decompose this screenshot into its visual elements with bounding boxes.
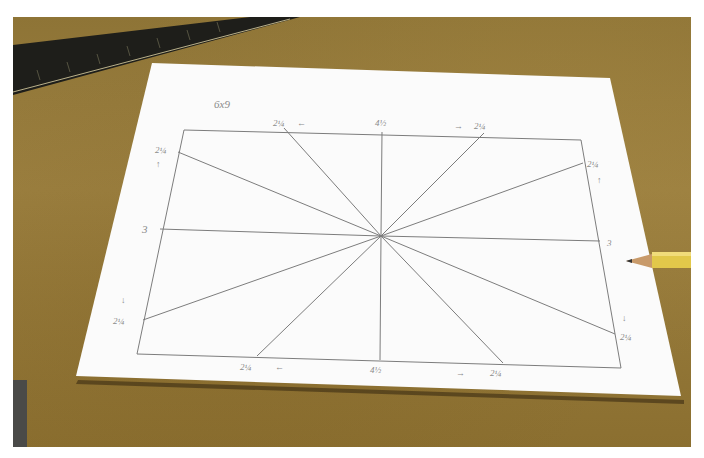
arrow-icon: ← <box>297 118 306 128</box>
arrow-icon: ↓ <box>121 295 126 305</box>
arrow-icon: ← <box>275 362 284 372</box>
clamp <box>13 380 27 447</box>
label-right-bottom: 2¼ <box>620 332 632 342</box>
label-bottom-center: 4½ <box>370 365 382 375</box>
label-right-middle: 3 <box>606 238 612 248</box>
label-top-center: 4½ <box>375 118 387 128</box>
arrow-icon: → <box>456 368 465 378</box>
label-left-middle: 3 <box>141 223 148 235</box>
arrow-icon: ↑ <box>597 175 602 185</box>
label-bottom-left: 2¼ <box>240 362 252 372</box>
arrow-icon: ↓ <box>622 313 627 323</box>
label-left-bottom: 2¼ <box>113 316 125 326</box>
label-top-left: 2¼ <box>273 118 285 128</box>
arrow-icon: ↑ <box>156 159 161 169</box>
label-top-right: 2¼ <box>474 121 486 131</box>
size-note: 6x9 <box>214 98 230 110</box>
label-right-top: 2¼ <box>587 159 599 169</box>
label-left-top: 2¼ <box>155 145 167 155</box>
scene-drawing: 6x9 2¼ ← 4½ → 2¼ 2¼ ↑ 3 ↓ 2¼ 2¼ ↑ 3 ↓ 2¼… <box>0 0 704 458</box>
label-bottom-right: 2¼ <box>490 368 502 378</box>
arrow-icon: → <box>454 121 463 131</box>
